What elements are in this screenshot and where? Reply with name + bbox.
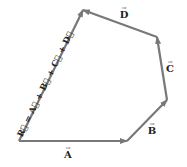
vector-d-label: → D (118, 6, 130, 20)
vector-b-text: B (148, 125, 156, 136)
vector-c-text: C (166, 63, 174, 74)
vector-diagram-svg (0, 0, 187, 167)
vector-a-text: A (64, 149, 72, 160)
vector-b-label: → B (146, 122, 158, 136)
vector-c-label: → C (164, 60, 176, 74)
vector-a-label: → A (62, 146, 74, 160)
vector-d-text: D (120, 9, 129, 20)
vector-diagram: → A → B → C → D R⃗ = A⃗ + B⃗ + C⃗ + D⃗ (0, 0, 187, 167)
